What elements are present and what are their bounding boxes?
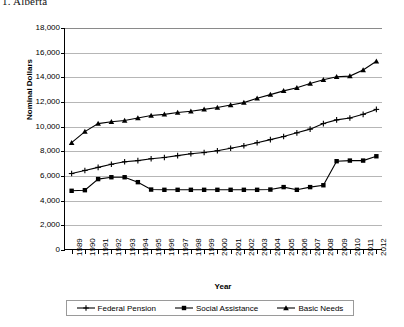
x-tick-mark [164,250,165,254]
x-tick-mark [85,250,86,254]
series-social-assistance [69,154,378,193]
y-tick-label: 12,000 [14,97,60,106]
x-tick-mark [297,250,298,254]
x-tick-mark [376,250,377,254]
series-basic-needs [69,59,379,145]
legend-item-social-assistance[interactable]: Social Assistance [175,303,258,313]
y-tick-label: 14,000 [14,72,60,81]
y-tick-label: 16,000 [14,48,60,57]
x-tick-mark [125,250,126,254]
chart-figure: 1. Alberta Nominal Dollars 18,00016,0001… [0,0,404,327]
x-tick-mark [111,250,112,254]
legend-label: Federal Pension [98,304,156,313]
x-tick-mark [72,250,73,254]
legend-marker-square-icon [175,303,193,313]
y-tick-label: 0 [14,245,60,254]
series-federal-pension [69,107,379,177]
y-tick-mark [61,250,65,251]
y-tick-label: 10,000 [14,122,60,131]
y-tick-label: 18,000 [14,23,60,32]
x-tick-mark [270,250,271,254]
x-tick-mark [138,250,139,254]
x-axis-title: Year [64,282,382,291]
legend-marker-triangle-icon [277,303,295,313]
x-tick-mark [231,250,232,254]
y-tick-label: 8,000 [14,146,60,155]
x-tick-mark [257,250,258,254]
figure-caption: 1. Alberta [2,0,47,7]
x-tick-mark [191,250,192,254]
x-tick-mark [244,250,245,254]
legend-label: Basic Needs [298,304,343,313]
x-tick-mark [98,250,99,254]
x-tick-mark [337,250,338,254]
y-tick-label: 4,000 [14,196,60,205]
legend-item-federal-pension[interactable]: Federal Pension [77,303,156,313]
x-tick-mark [363,250,364,254]
x-tick-mark [217,250,218,254]
y-tick-label: 6,000 [14,171,60,180]
x-tick-mark [310,250,311,254]
y-tick-label: 2,000 [14,220,60,229]
x-tick-mark [178,250,179,254]
x-tick-mark [284,250,285,254]
legend-item-basic-needs[interactable]: Basic Needs [277,303,343,313]
x-tick-mark [350,250,351,254]
legend-label: Social Assistance [196,304,258,313]
x-tick-mark [323,250,324,254]
x-tick-mark [151,250,152,254]
series-layer [65,28,383,250]
chart-legend: Federal PensionSocial AssistanceBasic Ne… [66,300,354,316]
plot-area: 18,00016,00014,00012,00010,0008,0006,000… [64,28,382,250]
x-tick-mark [204,250,205,254]
legend-marker-plus-icon [77,303,95,313]
